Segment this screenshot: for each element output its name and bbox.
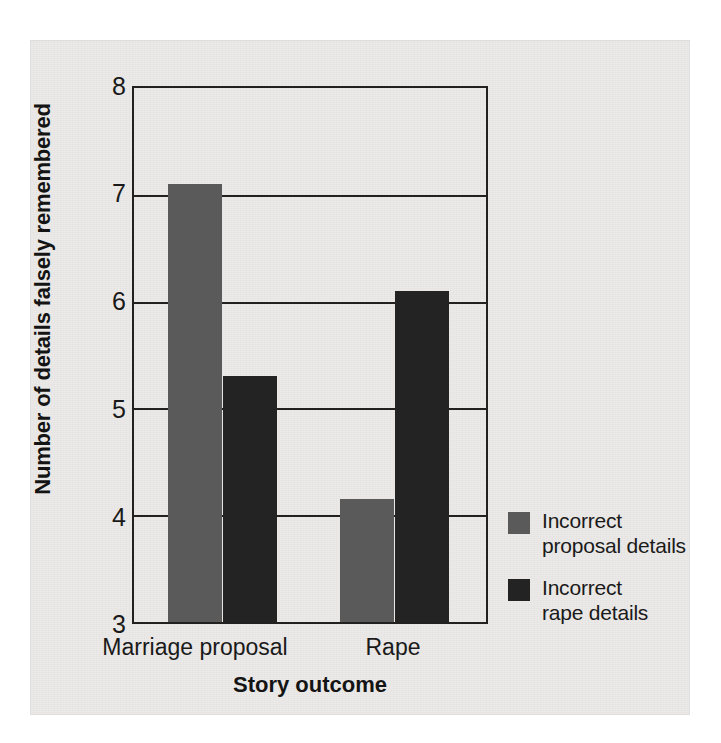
y-axis-title: Number of details falsely remembered xyxy=(30,84,56,514)
legend-swatch-icon-rape xyxy=(508,579,530,601)
chart-legend: Incorrect proposal details Incorrect rap… xyxy=(508,508,698,642)
plot-area xyxy=(132,86,488,624)
bar-rape-incorrect-proposal-details[interactable] xyxy=(340,499,394,622)
legend-label-rape-line2: rape details xyxy=(542,600,648,625)
bar-chart-figure: 8 7 6 5 4 3 Number of details falsely re… xyxy=(0,0,721,743)
bars-layer xyxy=(134,88,486,622)
bar-rape-incorrect-rape-details[interactable] xyxy=(395,291,449,622)
legend-label-proposal-line1: Incorrect xyxy=(542,508,686,533)
y-tick-label-4: 4 xyxy=(86,503,126,532)
legend-item-incorrect-rape-details[interactable]: Incorrect rape details xyxy=(508,575,698,625)
x-tick-label-rape: Rape xyxy=(318,634,468,661)
legend-swatch-icon-proposal xyxy=(508,512,530,534)
legend-item-incorrect-proposal-details[interactable]: Incorrect proposal details xyxy=(508,508,698,558)
y-tick-label-8: 8 xyxy=(86,72,126,101)
legend-label-proposal-line2: proposal details xyxy=(542,533,686,558)
legend-label-proposal: Incorrect proposal details xyxy=(542,508,686,558)
y-tick-label-6: 6 xyxy=(86,287,126,316)
x-tick-label-marriage-proposal: Marriage proposal xyxy=(100,634,290,661)
x-axis-title: Story outcome xyxy=(132,672,488,698)
bar-marriage-proposal-incorrect-proposal-details[interactable] xyxy=(168,184,222,622)
bar-marriage-proposal-incorrect-rape-details[interactable] xyxy=(223,376,277,622)
legend-label-rape-line1: Incorrect xyxy=(542,575,648,600)
legend-label-rape: Incorrect rape details xyxy=(542,575,648,625)
y-tick-label-5: 5 xyxy=(86,395,126,424)
y-tick-label-7: 7 xyxy=(86,179,126,208)
